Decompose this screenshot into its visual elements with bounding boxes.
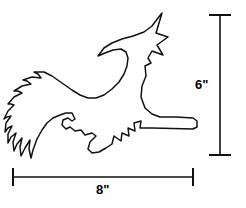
width-dimension-label: 8" (96, 183, 109, 196)
witch-outline-group (4, 13, 197, 158)
witch-outline-path (4, 13, 197, 158)
witch-pattern-figure (0, 0, 246, 208)
height-dimension-label: 6" (195, 78, 208, 91)
pattern-diagram-page: 6" 8" (0, 0, 246, 208)
height-dimension-line (209, 15, 231, 155)
